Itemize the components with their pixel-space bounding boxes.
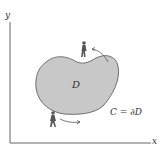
walker-top-icon bbox=[81, 41, 87, 57]
boundary-label: C = ∂D bbox=[110, 107, 142, 117]
diagram-canvas bbox=[0, 0, 162, 148]
x-axis-label: x bbox=[152, 136, 157, 146]
region-label: D bbox=[72, 79, 80, 90]
walker-bottom-icon bbox=[50, 111, 56, 127]
y-axis-label: y bbox=[5, 10, 10, 20]
